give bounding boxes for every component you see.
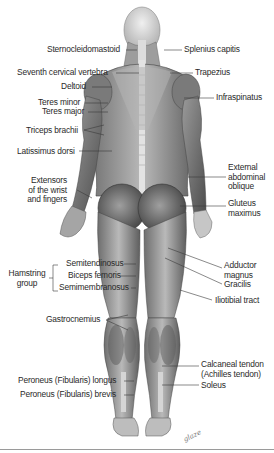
label-semimembranosus: Semimembranosus — [59, 283, 129, 293]
label-seventh-cervical-vertebra: Seventh cervical vertebra — [17, 68, 108, 78]
bottom-divider — [0, 449, 274, 450]
label-calcaneal-tendon: Calcaneal tendon (Achilles tendon) — [201, 360, 264, 379]
left-foot — [113, 418, 139, 436]
label-peroneus-brevis: Peroneus (Fibularis) brevis — [20, 390, 116, 400]
anatomy-figure: Sternocleidomastoid Seventh cervical ver… — [0, 0, 274, 453]
label-deltoid: Deltoid — [61, 82, 86, 92]
label-adductor-magnus: Adductor magnus — [224, 261, 256, 280]
label-triceps-brachii: Triceps brachii — [26, 126, 78, 136]
label-sternocleidomastoid: Sternocleidomastoid — [47, 45, 120, 55]
label-external-abdominal-oblique: External abdominal oblique — [228, 163, 265, 192]
label-biceps-femoris: Biceps femoris — [68, 271, 121, 281]
label-gracilis: Gracilis — [224, 280, 251, 290]
label-trapezius: Trapezius — [195, 68, 230, 78]
label-semitendinosus: Semitendinosus — [66, 259, 124, 269]
label-soleus: Soleus — [201, 381, 226, 391]
label-peroneus-longus: Peroneus (Fibularis) longus — [18, 376, 116, 386]
right-foot — [146, 418, 172, 436]
label-teres-major: Teres major — [42, 107, 84, 117]
label-splenius-capitis: Splenius capitis — [184, 45, 240, 55]
right-hand — [194, 210, 212, 238]
label-extensors-wrist-fingers: Extensors of the wrist and fingers — [22, 176, 67, 205]
label-iliotibial-tract: Iliotibial tract — [215, 296, 259, 306]
label-latissimus-dorsi: Latissimus dorsi — [17, 147, 75, 157]
label-gastrocnemius: Gastrocnemius — [46, 315, 100, 325]
label-hamstring-group: Hamstring group — [6, 269, 48, 288]
left-hand — [60, 206, 86, 237]
label-infraspinatus: Infraspinatus — [216, 93, 262, 103]
label-gluteus-maximus: Gluteus maximus — [228, 199, 260, 218]
